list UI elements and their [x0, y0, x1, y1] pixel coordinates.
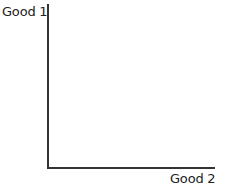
x-axis-label: Good 2 — [170, 171, 215, 186]
y-axis-label: Good 1 — [2, 4, 47, 19]
x-axis — [47, 167, 215, 169]
y-axis — [47, 4, 49, 169]
